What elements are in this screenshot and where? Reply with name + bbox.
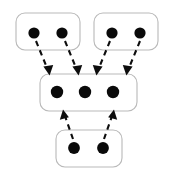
diagram-canvas xyxy=(0,0,172,176)
node-dot-middle-2[interactable] xyxy=(79,86,91,98)
node-group-graph xyxy=(0,0,172,176)
node-dot-top-right-1[interactable] xyxy=(106,27,117,38)
group-box-top-right[interactable] xyxy=(94,13,158,50)
node-dot-top-right-2[interactable] xyxy=(134,27,145,38)
node-dot-middle-3[interactable] xyxy=(107,86,119,98)
group-box-bottom[interactable] xyxy=(56,130,122,167)
group-box-top-left[interactable] xyxy=(16,13,80,50)
node-dot-middle-1[interactable] xyxy=(51,86,63,98)
node-dot-top-left-1[interactable] xyxy=(28,27,39,38)
node-dot-top-left-2[interactable] xyxy=(56,27,67,38)
node-dot-bottom-2[interactable] xyxy=(97,142,109,154)
node-dot-bottom-1[interactable] xyxy=(68,142,80,154)
